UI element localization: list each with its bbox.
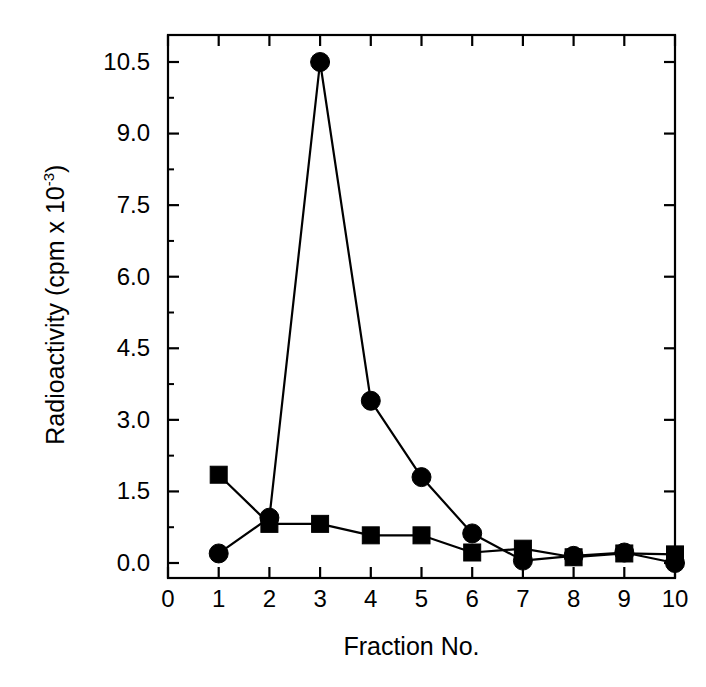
radioactivity-fraction-chart: Radioactivity (cpm x 10-3) Fraction No. … <box>0 0 706 687</box>
marker-circle-6 <box>463 524 482 543</box>
marker-square-8 <box>565 549 582 566</box>
series-layer <box>209 53 684 573</box>
plot-area <box>0 0 706 687</box>
series-line-square-series <box>219 475 675 558</box>
marker-square-6 <box>464 544 481 561</box>
tick-marks <box>168 35 675 578</box>
marker-square-2 <box>261 515 278 532</box>
marker-circle-1 <box>209 544 228 563</box>
marker-square-1 <box>210 466 227 483</box>
marker-square-3 <box>312 515 329 532</box>
series-circle-series <box>209 53 684 573</box>
series-line-circle-series <box>219 62 675 563</box>
marker-square-5 <box>413 527 430 544</box>
axis-frame <box>168 35 675 578</box>
marker-circle-3 <box>311 53 330 72</box>
marker-square-10 <box>667 546 684 563</box>
series-square-series <box>210 466 683 566</box>
marker-square-4 <box>362 527 379 544</box>
marker-circle-5 <box>412 468 431 487</box>
marker-square-7 <box>514 540 531 557</box>
marker-circle-4 <box>361 391 380 410</box>
marker-square-9 <box>616 545 633 562</box>
